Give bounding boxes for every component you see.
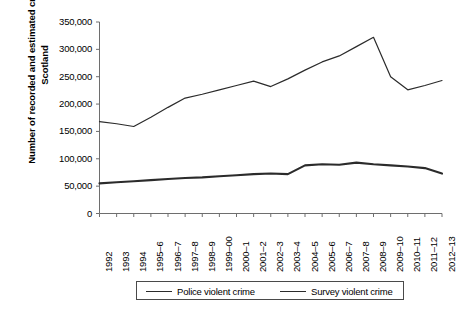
y-tick-label: 350,000 [36, 17, 92, 27]
y-tick-label: 250,000 [36, 72, 92, 82]
x-tick-label: 1992 [103, 252, 114, 272]
series-line-survey-violent-crime [100, 37, 443, 126]
x-tick-label: 2001–2 [257, 241, 268, 272]
x-tick-label: 2006–7 [343, 241, 354, 272]
x-tick-label: 1998–9 [206, 241, 217, 272]
x-tick-label: 1999–00 [223, 236, 234, 272]
series-line-police-violent-crime [100, 163, 443, 184]
y-tick-label: 100,000 [36, 154, 92, 164]
legend-label-police: Police violent crime [177, 286, 255, 297]
legend-item-survey-violent-crime: Survey violent crime [280, 282, 393, 301]
x-tick-label: 2009–10 [394, 236, 405, 272]
legend-line-swatch-police [146, 291, 172, 292]
y-tick-label: 50,000 [36, 181, 92, 191]
x-tick-label: 2004–5 [309, 241, 320, 272]
x-tick-label: 2007–8 [360, 241, 371, 272]
y-tick-label: 200,000 [36, 99, 92, 109]
x-tick-label: 2005–6 [326, 241, 337, 272]
y-axis-tick-labels: 050,000100,000150,000200,000250,000300,0… [34, 0, 92, 230]
x-tick-label: 2002–3 [274, 241, 285, 272]
x-tick-label: 1996–7 [172, 241, 183, 272]
legend-item-police-violent-crime: Police violent crime [146, 282, 255, 301]
y-tick-label: 150,000 [36, 126, 92, 136]
legend-line-swatch-survey [280, 291, 306, 292]
x-tick-label: 2008–9 [377, 241, 388, 272]
chart-container: Number of recorded and estimated crimes … [0, 0, 459, 316]
x-tick-label: 2000–1 [240, 241, 251, 272]
x-tick-label: 1993 [120, 252, 131, 272]
x-tick-label: 2012–13 [446, 236, 457, 272]
chart-legend: Police violent crime Survey violent crim… [136, 281, 404, 300]
y-tick-label: 300,000 [36, 44, 92, 54]
x-tick-label: 2011–12 [428, 237, 439, 272]
x-tick-label: 2010–11 [411, 237, 422, 272]
legend-label-survey: Survey violent crime [311, 286, 393, 297]
x-tick-label: 1994 [137, 252, 148, 272]
x-tick-label: 1997–8 [189, 241, 200, 272]
x-tick-label: 1995–6 [154, 241, 165, 272]
x-tick-label: 2003–4 [291, 241, 302, 272]
y-tick-label: 0 [36, 209, 92, 219]
